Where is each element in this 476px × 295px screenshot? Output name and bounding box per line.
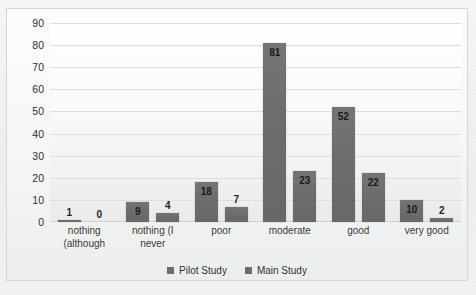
bar-item[interactable]: 18 <box>195 23 218 222</box>
bar-group: 102 <box>393 23 462 222</box>
chart-legend: Pilot StudyMain Study <box>7 265 467 276</box>
bar-group: 10 <box>50 23 119 222</box>
y-axis-tick-label: 10 <box>32 194 44 206</box>
bar-item[interactable]: 52 <box>332 23 355 222</box>
bar[interactable] <box>332 107 355 222</box>
bar-value-label: 1 <box>66 207 72 218</box>
bar-value-label: 10 <box>406 204 417 215</box>
bar-value-label: 2 <box>439 205 445 216</box>
category-label: very good <box>393 225 462 238</box>
legend-item[interactable]: Main Study <box>245 265 307 276</box>
bar-value-label: 0 <box>96 209 102 220</box>
chart-frame: 9080706050403020100 109418781235222102 n… <box>6 8 468 281</box>
legend-item[interactable]: Pilot Study <box>167 265 227 276</box>
y-axis-tick-label: 50 <box>32 105 44 117</box>
bar[interactable] <box>156 213 179 222</box>
bar-value-label: 4 <box>165 200 171 211</box>
category-label-line: never <box>119 238 188 251</box>
category-label-line: poor <box>187 225 256 238</box>
bar-item[interactable]: 22 <box>362 23 385 222</box>
y-axis: 9080706050403020100 <box>7 9 50 222</box>
bar-value-label: 7 <box>233 194 239 205</box>
bar-item[interactable]: 81 <box>263 23 286 222</box>
category-label-line: nothing (I <box>119 225 188 238</box>
bar[interactable] <box>263 43 286 222</box>
y-axis-tick-label: 20 <box>32 172 44 184</box>
y-axis-tick-label: 90 <box>32 17 44 29</box>
bar-group: 187 <box>187 23 256 222</box>
bar-value-label: 23 <box>299 175 310 186</box>
category-label-line: very good <box>393 225 462 238</box>
legend-label: Main Study <box>257 265 307 276</box>
bar[interactable] <box>430 218 453 222</box>
category-label-line: good <box>324 225 393 238</box>
y-axis-tick-label: 70 <box>32 61 44 73</box>
bar-value-label: 22 <box>368 177 379 188</box>
legend-swatch-icon <box>245 267 252 274</box>
category-label-line: (although <box>50 238 119 251</box>
y-axis-tick-label: 0 <box>38 216 44 228</box>
bar-group: 5222 <box>324 23 393 222</box>
bar[interactable] <box>58 220 81 222</box>
y-axis-tick-label: 30 <box>32 150 44 162</box>
y-axis-tick-label: 80 <box>32 39 44 51</box>
category-label: moderate <box>256 225 325 238</box>
bar-item[interactable]: 2 <box>430 23 453 222</box>
category-label: good <box>324 225 393 238</box>
y-axis-tick-label: 40 <box>32 128 44 140</box>
legend-label: Pilot Study <box>179 265 227 276</box>
legend-swatch-icon <box>167 267 174 274</box>
bar-group: 94 <box>119 23 188 222</box>
bar-item[interactable]: 1 <box>58 23 81 222</box>
bar-value-label: 9 <box>135 206 141 217</box>
bar-item[interactable]: 23 <box>293 23 316 222</box>
category-label: nothing(although <box>50 225 119 250</box>
category-label-line: nothing <box>50 225 119 238</box>
bar-item[interactable]: 0 <box>88 23 111 222</box>
category-label: nothing (Inever <box>119 225 188 250</box>
bar-value-label: 18 <box>201 186 212 197</box>
category-label: poor <box>187 225 256 238</box>
bar[interactable] <box>225 207 248 222</box>
bar-series-container: 109418781235222102 <box>50 23 461 222</box>
bar-item[interactable]: 4 <box>156 23 179 222</box>
bar-item[interactable]: 9 <box>126 23 149 222</box>
bar-group: 8123 <box>256 23 325 222</box>
y-axis-tick-label: 60 <box>32 83 44 95</box>
bar-value-label: 81 <box>269 47 280 58</box>
category-axis-labels: nothing(althoughnothing (Ineverpoormoder… <box>50 225 461 259</box>
bar-item[interactable]: 7 <box>225 23 248 222</box>
bar-item[interactable]: 10 <box>400 23 423 222</box>
category-label-line: moderate <box>256 225 325 238</box>
bar-value-label: 52 <box>338 111 349 122</box>
